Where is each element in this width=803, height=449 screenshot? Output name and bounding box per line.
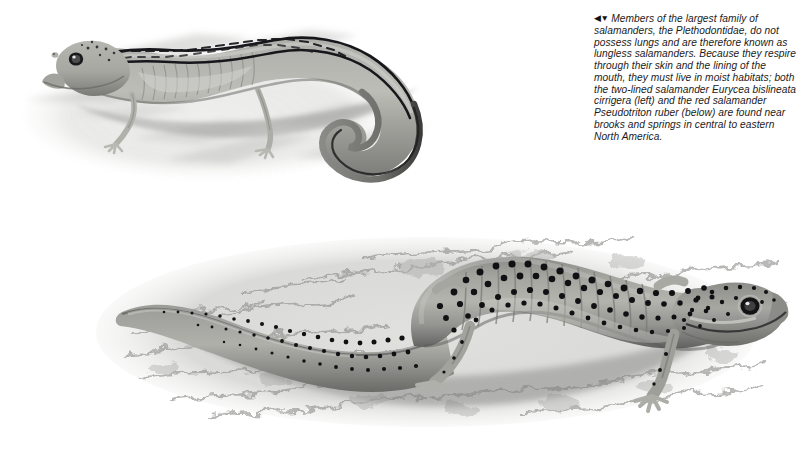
caption-body-text: Members of the largest family of salaman… xyxy=(594,13,796,142)
figure-red-salamander xyxy=(62,214,790,446)
red-salamander-drawing xyxy=(62,214,790,446)
left-down-triangle-icons: ◀▼ xyxy=(594,13,608,23)
figure-two-lined-salamander xyxy=(14,8,434,208)
illustration-page: ◀▼ Members of the largest family of sala… xyxy=(0,0,803,449)
caption-paragraph: ◀▼ Members of the largest family of sala… xyxy=(594,13,798,142)
two-lined-salamander-drawing xyxy=(14,8,434,208)
figure-caption: ◀▼ Members of the largest family of sala… xyxy=(594,13,798,142)
